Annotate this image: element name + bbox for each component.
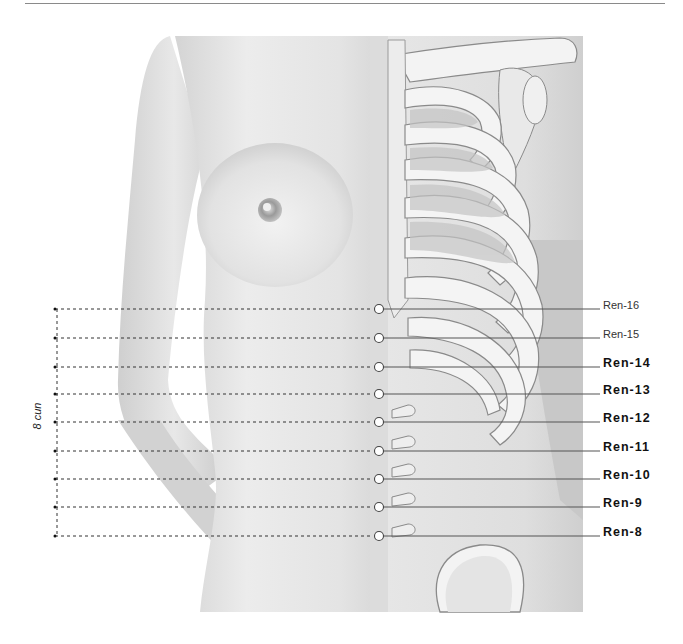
ruler-tick (54, 421, 57, 424)
ruler-tick (54, 535, 57, 538)
acupoint-marker (375, 334, 384, 343)
acupoint-label: Ren-10 (603, 469, 651, 482)
acupoint-label: Ren-14 (603, 357, 651, 370)
acupoint-label: Ren-16 (603, 300, 639, 311)
ruler-tick (54, 366, 57, 369)
acupoint-marker (375, 305, 384, 314)
acupoint-marker (375, 532, 384, 541)
ruler-tick (54, 478, 57, 481)
acupoint-label: Ren-9 (603, 497, 643, 510)
acupoint-marker (375, 475, 384, 484)
acupoint-marker (375, 390, 384, 399)
acupoint-marker (375, 418, 384, 427)
acupoint-marker (375, 503, 384, 512)
acupoint-marker (375, 447, 384, 456)
nipple (258, 198, 282, 222)
measure-label: 8 cun (31, 401, 43, 431)
acupoint-label: Ren-12 (603, 412, 651, 425)
sternum-strip (370, 36, 388, 612)
ruler-tick (54, 337, 57, 340)
acupoint-label: Ren-8 (603, 526, 643, 539)
ruler-tick (54, 450, 57, 453)
ruler-tick (54, 506, 57, 509)
acupoint-label: Ren-13 (603, 384, 651, 397)
anatomy-illustration (0, 0, 683, 644)
acupoint-label: Ren-11 (603, 441, 650, 454)
ruler-tick (54, 308, 57, 311)
acupoint-label: Ren-15 (603, 329, 639, 340)
acupoint-marker (375, 363, 384, 372)
ruler-tick (54, 393, 57, 396)
